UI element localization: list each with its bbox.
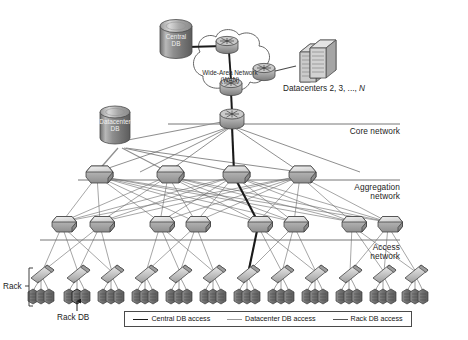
datacenter-db-label-line2: DB	[91, 125, 139, 132]
access-switch	[52, 217, 77, 233]
aggregation-switch	[223, 166, 250, 183]
tier-label-access-line2: network	[330, 252, 400, 261]
access-switch	[378, 217, 403, 233]
datacenter-db-label-line1: Datacenter	[91, 118, 139, 125]
core-router	[220, 109, 244, 129]
rack-annotation-label: Rack	[3, 282, 22, 291]
rack-group	[166, 265, 192, 304]
aggregation-switch	[86, 166, 113, 183]
access-switch	[342, 217, 367, 233]
tier-label-access: Access network	[330, 243, 400, 262]
legend-swatch-central-icon	[133, 319, 148, 320]
rack-group	[234, 265, 260, 304]
tor-switch	[339, 265, 362, 283]
legend-label-central: Central DB access	[151, 315, 210, 323]
legend-item-central-db: Central DB access	[133, 315, 210, 323]
tor-switch	[405, 265, 428, 283]
rack-server	[284, 289, 294, 304]
link-core-agg3-central	[232, 126, 234, 172]
legend-item-rack-db: Rack DB access	[333, 315, 403, 323]
wan-label: Wide-Area Network (WAN)	[186, 69, 274, 83]
tor-switch	[305, 265, 328, 283]
datacenters-server-stack-icon	[300, 40, 336, 82]
tor-switch	[67, 265, 90, 283]
wan-label-line1: Wide-Area Network	[186, 69, 274, 76]
tor-switch	[203, 265, 226, 283]
central-db-label: Central DB	[152, 33, 200, 47]
link-core-agg4	[232, 126, 300, 172]
tor-switch	[31, 265, 54, 283]
tier-label-aggregation: Aggregation network	[320, 183, 400, 202]
tor-switch	[271, 265, 294, 283]
rack-group	[98, 265, 124, 304]
wan-label-line2: (WAN)	[186, 76, 274, 83]
rack-server	[418, 289, 428, 304]
rack-server	[216, 289, 226, 304]
network-diagram: Wide-Area Network (WAN) Central DB Datac…	[0, 0, 468, 340]
rack-server	[182, 289, 192, 304]
rack-group	[268, 265, 294, 304]
access-switch	[248, 217, 273, 233]
wan-router-top	[216, 36, 238, 53]
rack-db-annotation-label: Rack DB	[57, 313, 89, 322]
rack-server	[386, 289, 396, 304]
datacenters-label-n: N	[359, 84, 365, 93]
tier-label-core: Core network	[330, 127, 400, 136]
legend-label-rack: Rack DB access	[351, 315, 403, 323]
tor-switch	[169, 265, 192, 283]
link-dcdb-agg4	[126, 148, 300, 172]
link-core-agg-left2	[140, 126, 232, 172]
rack-group	[402, 265, 428, 304]
rack-group	[64, 265, 90, 304]
diagram-canvas	[0, 0, 468, 340]
access-switch	[186, 217, 211, 233]
rack-group	[336, 265, 362, 304]
rack-group	[370, 265, 396, 304]
rack-group	[132, 265, 158, 304]
legend-swatch-datacenter-icon	[227, 319, 242, 320]
aggregation-switch	[157, 166, 184, 183]
access-switch	[284, 217, 309, 233]
central-db-label-line2: DB	[152, 40, 200, 47]
datacenters-label-prefix: Datacenters 2, 3, ...,	[283, 84, 359, 93]
tor-switch	[135, 265, 158, 283]
legend-item-datacenter-db: Datacenter DB access	[227, 315, 316, 323]
datacenters-label: Datacenters 2, 3, ..., N	[283, 84, 365, 93]
legend-label-datacenter: Datacenter DB access	[245, 315, 316, 323]
datacenter-db-label: Datacenter DB	[91, 118, 139, 132]
rack-server	[318, 289, 328, 304]
central-db-label-line1: Central	[152, 33, 200, 40]
rack-group	[302, 265, 328, 304]
rack-server	[148, 289, 158, 304]
rack-server	[80, 289, 90, 304]
rack-server	[250, 289, 260, 304]
rack-server	[114, 289, 124, 304]
rack-server	[352, 289, 362, 304]
tor-switch	[101, 265, 124, 283]
legend-swatch-rack-icon	[333, 319, 348, 320]
access-switch	[150, 217, 175, 233]
aggregation-switch	[289, 166, 316, 183]
tier-label-core-line1: Core network	[330, 127, 400, 136]
rack-group	[28, 265, 54, 304]
tier-label-aggregation-line2: network	[320, 192, 400, 201]
legend: Central DB access Datacenter DB access R…	[124, 311, 412, 327]
rack-group	[200, 265, 226, 304]
rack-server	[44, 289, 54, 304]
access-switch	[90, 217, 115, 233]
